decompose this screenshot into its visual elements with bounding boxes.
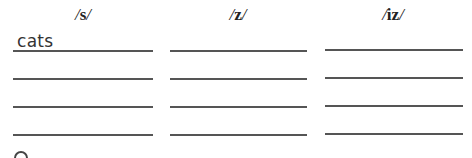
circle-icon [14, 151, 28, 158]
answer-line-z-4[interactable] [170, 134, 307, 136]
answer-line-s-3[interactable] [13, 106, 153, 108]
answer-line-s-4[interactable] [13, 134, 153, 136]
column-header-z: /z/ [208, 6, 268, 24]
column-header-iz: /iz/ [363, 6, 423, 24]
answer-line-iz-3[interactable] [325, 105, 463, 107]
answer-line-s-1[interactable] [13, 50, 153, 52]
column-header-s: /s/ [53, 6, 113, 24]
answer-line-s-2[interactable] [13, 78, 153, 80]
answer-line-z-2[interactable] [170, 78, 307, 80]
phoneme-label: z [234, 5, 242, 24]
answer-line-z-3[interactable] [170, 106, 307, 108]
answer-line-z-1[interactable] [170, 50, 307, 52]
slash: / [242, 5, 247, 24]
answer-line-iz-1[interactable] [325, 49, 463, 51]
slash: / [399, 5, 404, 24]
phoneme-label: iz [387, 5, 399, 24]
answer-line-iz-4[interactable] [325, 133, 463, 135]
slash: / [86, 5, 91, 24]
answer-line-iz-2[interactable] [325, 77, 463, 79]
answer-s-1[interactable]: cats [17, 32, 54, 50]
